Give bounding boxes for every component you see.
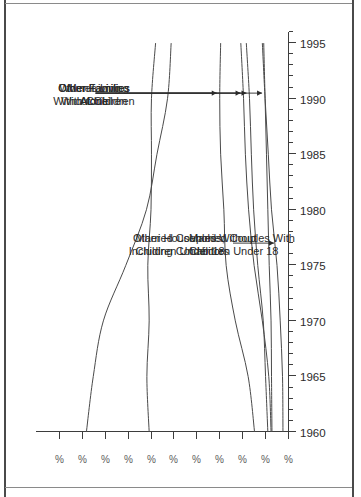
series-label: Other FamiliesWith Children — [57, 82, 129, 107]
page-border-top — [5, 3, 352, 4]
series-label: Married Couples WithChildren Under 18 — [189, 232, 295, 257]
arrowhead-icon — [211, 90, 216, 95]
series-label-line: Married Couples With — [189, 232, 295, 245]
arrowhead-icon — [241, 90, 246, 95]
page-border-right — [352, 0, 354, 497]
arrowhead-icon — [235, 90, 240, 95]
chart-stage: 19601965197019751980198519901995 %%%%%%%… — [16, 14, 346, 484]
series-label-line: Other Families — [57, 82, 129, 95]
page-border-bottom — [5, 487, 352, 488]
arrowhead-icon — [257, 90, 262, 95]
series-label-line: Children Under 18 — [189, 244, 295, 257]
page-border-left — [4, 0, 6, 497]
figure-page: 19601965197019751980198519901995 %%%%%%%… — [0, 0, 361, 497]
series-label-line: With Children — [57, 94, 129, 107]
